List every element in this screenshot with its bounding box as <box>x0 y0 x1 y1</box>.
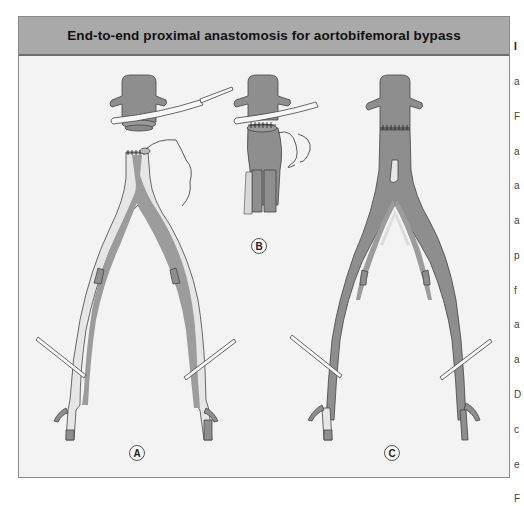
caption-letter: c <box>514 424 524 436</box>
caption-letter: F <box>514 111 524 123</box>
caption-letter: e <box>514 459 524 471</box>
panel-c-completed-bypass <box>290 75 492 440</box>
panel-b-graft-anastomosis <box>234 75 318 214</box>
caption-letter: a <box>514 319 524 331</box>
caption-letter: I <box>514 41 524 53</box>
panel-a-proximal-aortic-stump <box>110 75 233 131</box>
caption-letter: a <box>514 180 524 192</box>
caption-edge-cropped: I a F a a a p f a a D c e F <box>514 18 524 506</box>
caption-letter: p <box>514 250 524 262</box>
caption-letter: a <box>514 215 524 227</box>
caption-letter: f <box>514 285 524 297</box>
caption-letter: a <box>514 146 524 158</box>
panel-label-a: A <box>129 445 145 461</box>
caption-letter: a <box>514 354 524 366</box>
panel-label-c: C <box>384 445 400 461</box>
panel-a-endarterectomized-iliacs <box>36 140 236 440</box>
caption-letter: D <box>514 389 524 401</box>
caption-letter: F <box>514 493 524 505</box>
caption-letter: a <box>514 76 524 88</box>
panel-label-b: B <box>251 238 267 254</box>
